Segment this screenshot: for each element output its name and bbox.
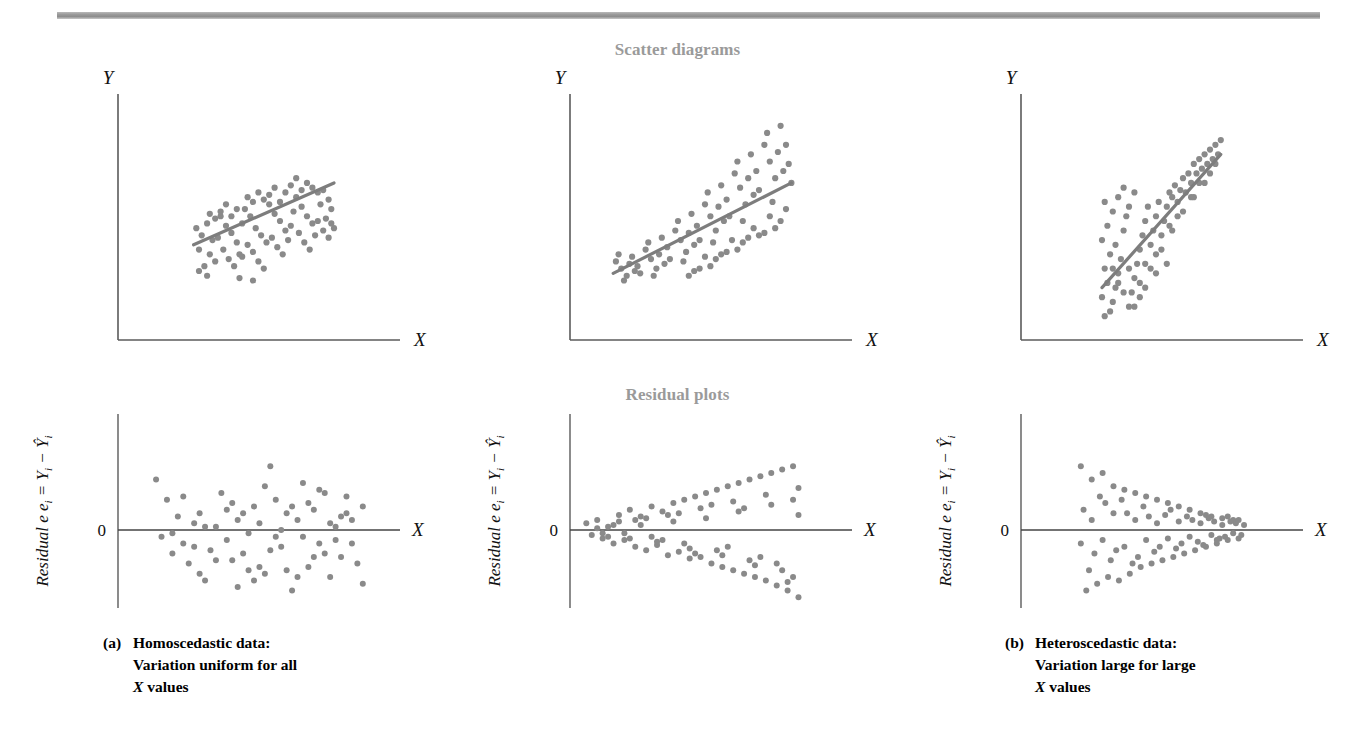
scatter-svg: YX	[903, 62, 1355, 362]
x-axis-label: X	[411, 519, 425, 540]
caption-line: Variation uniform for all	[133, 654, 297, 676]
x-axis-label: X	[1316, 329, 1330, 350]
regression-line	[613, 183, 791, 273]
caption-body: Homoscedastic data:Variation uniform for…	[133, 632, 297, 698]
residual-axis-label: Residual e ei = Yi − Ŷi	[485, 435, 506, 587]
regression-line	[1102, 154, 1221, 287]
residual-plot-b: 0XResidual e ei = Yi − Ŷi	[452, 408, 904, 623]
data-points	[1099, 137, 1224, 319]
caption-a: (a)Homoscedastic data:Variation uniform …	[103, 632, 297, 698]
scatter-svg: YX	[452, 62, 904, 362]
svg-text:Residual e ei = Yi − Ŷi: Residual e ei = Yi − Ŷi	[485, 435, 506, 587]
scatter-svg: YX	[0, 62, 452, 362]
caption-line: Homoscedastic data:	[133, 632, 297, 654]
data-points	[583, 463, 801, 600]
residual-plot-a: 0XResidual e ei = Yi − Ŷi	[0, 408, 452, 623]
svg-text:Residual e ei = Yi − Ŷi: Residual e ei = Yi − Ŷi	[33, 435, 54, 587]
panel-b: YX 0XResidual e ei = Yi − Ŷi (b)Heterosc…	[452, 0, 904, 741]
panel-grid: YX 0XResidual e ei = Yi − Ŷi (a)Homosced…	[0, 0, 1355, 741]
residual-svg: 0XResidual e ei = Yi − Ŷi	[452, 408, 904, 623]
x-axis-label: X	[413, 329, 427, 350]
zero-tick-label: 0	[1001, 521, 1010, 540]
residual-axis-label: Residual e ei = Yi − Ŷi	[936, 435, 957, 587]
scatter-plot-c: YX	[903, 62, 1355, 362]
residual-svg: 0XResidual e ei = Yi − Ŷi	[903, 408, 1355, 623]
residual-axis-label: Residual e ei = Yi − Ŷi	[33, 435, 54, 587]
y-axis-label: Y	[103, 67, 116, 88]
scatter-plot-b: YX	[452, 62, 904, 362]
x-variable: X	[133, 678, 143, 695]
zero-tick-label: 0	[98, 521, 107, 540]
figure-root: Scatter diagrams Residual plots YX 0XRes…	[0, 0, 1355, 741]
zero-tick-label: 0	[550, 521, 559, 540]
residual-plot-c: 0XResidual e ei = Yi − Ŷi	[903, 408, 1355, 623]
residual-svg: 0XResidual e ei = Yi − Ŷi	[0, 408, 452, 623]
svg-text:Residual e ei = Yi − Ŷi: Residual e ei = Yi − Ŷi	[936, 435, 957, 587]
x-axis-label: X	[1314, 519, 1328, 540]
caption-tag: (a)	[103, 632, 133, 654]
x-axis-label: X	[865, 329, 879, 350]
data-points	[1078, 463, 1247, 593]
scatter-plot-a: YX	[0, 62, 452, 362]
x-axis-label: X	[863, 519, 877, 540]
panel-c: YX 0XResidual e ei = Yi − Ŷi (c)Heterosc…	[903, 0, 1355, 741]
panel-a: YX 0XResidual e ei = Yi − Ŷi (a)Homosced…	[0, 0, 452, 741]
data-points	[153, 463, 366, 593]
y-axis-label: Y	[1006, 67, 1019, 88]
y-axis-label: Y	[555, 67, 568, 88]
caption-line: X values	[133, 676, 297, 698]
